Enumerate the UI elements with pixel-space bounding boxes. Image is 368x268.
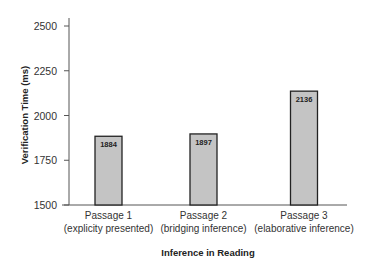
bar-rect	[291, 91, 318, 205]
bar-chart: Verification Time (ms) 15001750200022502…	[0, 0, 368, 268]
category-sublabel: (explicity presented)	[64, 223, 153, 234]
y-tick-label: 2500	[34, 20, 58, 32]
bar-value-label: 1897	[195, 138, 212, 147]
bar-3: 2136	[291, 91, 318, 205]
y-axis-title: Verification Time (ms)	[19, 66, 30, 165]
bar-value-label: 2136	[296, 95, 313, 104]
x-axis-title: Inference in Reading	[161, 247, 255, 258]
category-sublabel: (elaborative inference)	[254, 223, 354, 234]
category-label: Passage 3	[280, 210, 328, 221]
y-tick-label: 2000	[34, 110, 58, 122]
category-label: Passage 1	[85, 210, 133, 221]
y-tick-label: 1500	[34, 199, 58, 211]
category-label: Passage 2	[180, 210, 228, 221]
y-tick-label: 1750	[34, 154, 58, 166]
bar-2: 1897	[190, 134, 217, 205]
x-axis-categories: Passage 1(explicity presented)Passage 2(…	[64, 210, 354, 234]
category-sublabel: (bridging inference)	[160, 223, 246, 234]
bar-1: 1884	[95, 136, 122, 205]
y-axis-ticks: 15001750200022502500	[34, 20, 69, 211]
y-tick-label: 2250	[34, 65, 58, 77]
bar-value-label: 1884	[100, 140, 118, 149]
bars: 188418972136	[95, 91, 318, 205]
